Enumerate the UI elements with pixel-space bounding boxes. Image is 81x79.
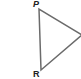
triangle-pqr <box>39 9 81 70</box>
vertex-label-p: P <box>33 0 39 9</box>
triangle-diagram: P R <box>0 0 81 79</box>
triangle-shape <box>0 0 81 79</box>
vertex-label-r: R <box>33 70 40 79</box>
